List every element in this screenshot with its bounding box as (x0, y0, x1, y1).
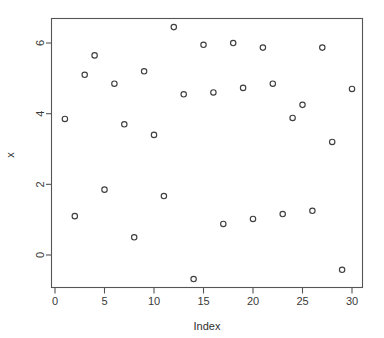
x-axis-title: Index (194, 320, 221, 332)
x-tick-label: 30 (346, 295, 358, 307)
data-point (270, 81, 275, 86)
x-tick-label: 20 (247, 295, 259, 307)
data-points (62, 24, 354, 281)
data-point (201, 42, 206, 47)
data-point (191, 276, 196, 281)
data-point (349, 86, 354, 91)
data-point (181, 92, 186, 97)
x-tick-label: 25 (296, 295, 308, 307)
data-point (62, 116, 67, 121)
x-tick-label: 15 (197, 295, 209, 307)
x-tick-label: 10 (148, 295, 160, 307)
data-point (221, 221, 226, 226)
y-axis-title: x (4, 152, 16, 158)
data-point (72, 213, 77, 218)
data-point (151, 132, 156, 137)
data-point (320, 45, 325, 50)
plot-frame (52, 19, 363, 288)
data-point (339, 267, 344, 272)
data-point (82, 72, 87, 77)
data-point (141, 69, 146, 74)
x-axis-ticks: 051015202530 (52, 288, 358, 307)
y-tick-label: 0 (34, 252, 46, 258)
y-tick-label: 6 (34, 40, 46, 46)
data-point (310, 208, 315, 213)
data-point (300, 102, 305, 107)
data-point (240, 85, 245, 90)
x-tick-label: 5 (101, 295, 107, 307)
data-point (161, 193, 166, 198)
data-point (92, 53, 97, 58)
data-point (330, 139, 335, 144)
data-point (122, 122, 127, 127)
plot-canvas: 051015202530 0246 Index x (0, 0, 384, 338)
data-point (171, 24, 176, 29)
data-point (250, 216, 255, 221)
x-tick-label: 0 (52, 295, 58, 307)
data-point (260, 45, 265, 50)
data-point (102, 187, 107, 192)
y-tick-label: 4 (34, 111, 46, 117)
data-point (112, 81, 117, 86)
data-point (211, 90, 216, 95)
data-point (132, 235, 137, 240)
scatter-plot-figure: 051015202530 0246 Index x (0, 0, 384, 338)
data-point (280, 211, 285, 216)
data-point (290, 115, 295, 120)
y-axis-ticks: 0246 (34, 40, 52, 258)
y-tick-label: 2 (34, 181, 46, 187)
data-point (231, 40, 236, 45)
